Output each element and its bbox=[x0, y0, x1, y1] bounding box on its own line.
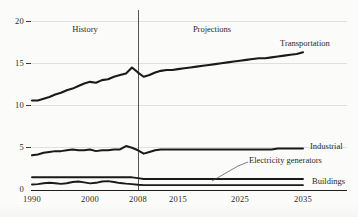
line-electricity-generators bbox=[32, 177, 303, 179]
series-label-electricity-generators: Electricity generators bbox=[249, 155, 322, 165]
series-lines bbox=[0, 0, 358, 217]
line-buildings bbox=[32, 181, 303, 185]
line-industrial bbox=[32, 146, 303, 155]
plot-area: 20 15 10 5 0 History Projections Transpo… bbox=[0, 0, 358, 217]
x-tick-label-2025: 2025 bbox=[231, 194, 249, 204]
series-label-buildings: Buildings bbox=[312, 176, 345, 186]
chart-container: 20 15 10 5 0 History Projections Transpo… bbox=[0, 0, 358, 217]
x-tick-label-2008: 2008 bbox=[129, 194, 147, 204]
x-tick-label-2000: 2000 bbox=[81, 194, 99, 204]
x-tick-label-1990: 1990 bbox=[23, 194, 41, 204]
x-tick-label-2015: 2015 bbox=[169, 194, 187, 204]
region-label-history: History bbox=[72, 24, 98, 34]
series-label-transportation: Transportation bbox=[280, 38, 330, 48]
series-label-industrial: Industrial bbox=[310, 141, 343, 151]
region-label-projections: Projections bbox=[193, 24, 231, 34]
x-tick-label-2035: 2035 bbox=[294, 194, 312, 204]
line-transportation bbox=[32, 52, 303, 100]
